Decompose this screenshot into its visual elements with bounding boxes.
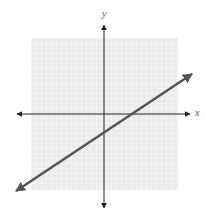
x-axis-label: x (195, 107, 199, 118)
coordinate-plane (0, 0, 206, 217)
y-axis-label: y (102, 8, 106, 19)
